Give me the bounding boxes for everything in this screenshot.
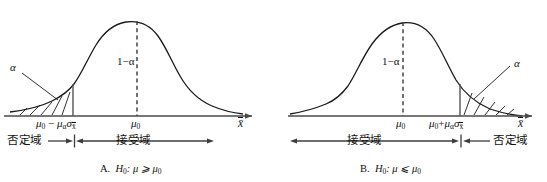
acceptance-arrow-head-right-a [207,138,214,143]
panel-b-caption: B. H0: μ ⩽ μ0 [360,162,421,176]
panel-a-plot [0,0,273,182]
panel-b: α 1−α μ0 μ0+μασx̄ x̄ 接受域 否定域 B. H0: μ ⩽ … [274,0,547,182]
acceptance-arrow-head-right-b [452,138,459,143]
critical-value-label-b: μ0+μασx̄ [429,118,463,130]
acceptance-arrow-head-left-a [76,138,83,143]
acceptance-region-label-b: 接受域 [347,135,382,147]
hypothesis-test-figure: α 1−α μ0 − μασx̄ μ0 x̄ 否定域 接受域 A. H0: μ … [0,0,547,182]
panel-b-plot [274,0,547,182]
x-axis-arrow-a [245,113,252,119]
mean-label-b: μ0 [396,118,405,130]
rejection-arrow-head-a [66,138,73,143]
rejection-region-label-a: 否定域 [7,135,42,147]
body-probability-label-a: 1−α [117,56,134,67]
body-probability-label-b: 1−α [382,56,399,67]
rejection-arrow-head-b [463,138,470,143]
x-axis-label-a: x̄ [238,118,243,130]
mean-label-a: μ0 [131,118,140,130]
alpha-label-b: α [514,58,520,69]
acceptance-region-label-a: 接受域 [116,135,151,147]
alpha-leader-b [474,66,510,99]
panel-a-caption: A. H0: μ ⩾ μ0 [100,162,161,176]
alpha-label-a: α [10,62,16,73]
panel-a: α 1−α μ0 − μασx̄ μ0 x̄ 否定域 接受域 A. H0: μ … [0,0,273,182]
acceptance-arrow-head-left-b [290,138,297,143]
normal-curve-a [10,22,243,114]
alpha-leader-a [22,73,58,100]
rejection-region-label-b: 否定域 [493,135,528,147]
rejection-hatching-b [464,93,514,115]
x-axis-arrow-b [525,113,532,119]
normal-curve-b [290,23,522,116]
x-axis-label-b: x̄ [518,118,523,130]
critical-value-label-a: μ0 − μασx̄ [36,118,76,130]
